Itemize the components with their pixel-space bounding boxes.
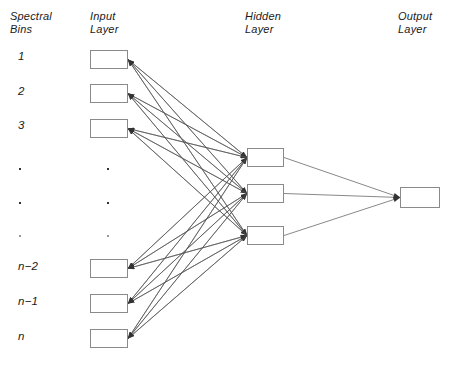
input-node-box — [90, 329, 128, 348]
input-node-box — [90, 294, 128, 313]
header-output-layer: Output Layer — [398, 10, 432, 35]
connection-line — [128, 158, 247, 339]
connection-line — [128, 194, 247, 269]
ellipsis-dot — [107, 235, 109, 237]
connection-line — [128, 158, 247, 304]
connection-line — [128, 194, 247, 339]
connection-line — [128, 158, 247, 269]
connection-line — [128, 236, 247, 269]
connection-line — [128, 194, 247, 269]
connection-line — [128, 236, 247, 304]
ellipsis-dot — [107, 168, 109, 170]
neural-network-diagram: Spectral Bins Input Layer Hidden Layer O… — [0, 0, 456, 367]
connection-line — [128, 129, 247, 158]
connection-line — [284, 158, 400, 198]
input-node-box — [90, 50, 128, 69]
connection-line — [128, 236, 247, 339]
connection-line — [284, 198, 400, 236]
ellipsis-dot — [19, 202, 21, 204]
connection-line — [128, 129, 247, 236]
connection-line — [128, 129, 247, 194]
connection-line — [128, 60, 247, 194]
connection-line — [128, 60, 247, 158]
input-node-box — [90, 259, 128, 278]
connection-line — [128, 129, 247, 194]
connection-line — [128, 129, 247, 158]
connection-line — [128, 94, 247, 236]
header-spectral-bins: Spectral Bins — [10, 10, 52, 35]
output-node-box — [400, 187, 440, 208]
ellipsis-dot — [19, 235, 21, 237]
connection-line — [128, 194, 247, 304]
hidden-node-box — [247, 226, 284, 245]
connection-line — [284, 194, 400, 198]
connection-line — [128, 158, 247, 304]
connection-line — [128, 194, 247, 339]
hidden-node-box — [247, 148, 284, 167]
bin-label: n−2 — [18, 260, 38, 272]
bin-label: n−1 — [18, 295, 38, 307]
connection-line — [128, 94, 247, 194]
connection-line — [128, 158, 247, 339]
connection-line — [128, 94, 247, 194]
header-input-layer: Input Layer — [90, 10, 119, 35]
connection-line — [128, 60, 247, 158]
connection-line — [128, 60, 247, 236]
connection-line — [128, 60, 247, 236]
input-node-box — [90, 119, 128, 138]
ellipsis-dot — [19, 168, 21, 170]
bin-label: 2 — [18, 85, 25, 97]
bin-label: n — [18, 330, 25, 342]
hidden-node-box — [247, 184, 284, 203]
connection-line — [128, 94, 247, 158]
ellipsis-dot — [107, 202, 109, 204]
connection-edges-layer — [0, 0, 456, 367]
connection-line — [128, 94, 247, 158]
bin-label: 1 — [18, 50, 25, 62]
input-node-box — [90, 84, 128, 103]
connection-line — [128, 236, 247, 304]
connection-line — [128, 129, 247, 236]
edges-input-to-hidden — [128, 60, 247, 339]
edges-hidden-to-output — [284, 158, 400, 236]
connection-line — [128, 236, 247, 269]
bin-label: 3 — [18, 119, 25, 131]
header-hidden-layer: Hidden Layer — [245, 10, 281, 35]
connection-line — [128, 236, 247, 339]
connection-line — [128, 60, 247, 194]
connection-line — [128, 94, 247, 236]
connection-line — [128, 194, 247, 304]
connection-line — [128, 158, 247, 269]
